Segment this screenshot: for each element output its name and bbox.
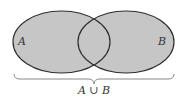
set-a-label: A [17,35,26,48]
union-brace [14,74,174,84]
union-caption: A ∪ B [77,84,110,97]
venn-diagram: A B A ∪ B [0,0,184,98]
venn-canvas: A B A ∪ B [0,0,184,98]
set-b-label: B [157,35,166,48]
